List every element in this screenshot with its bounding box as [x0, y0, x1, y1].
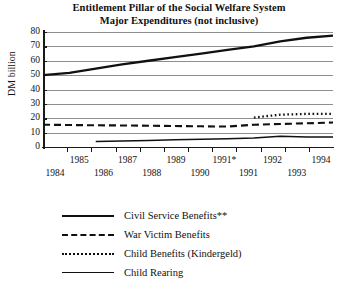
legend-line-swatch — [62, 234, 114, 241]
x-axis-tick-mark — [164, 147, 165, 152]
series-line — [43, 36, 333, 76]
y-axis-tick-label: 60 — [14, 56, 40, 66]
chart-figure: Entitlement Pillar of the Social Welfare… — [0, 0, 358, 288]
x-axis-label: 1992 — [253, 155, 293, 165]
x-axis-label: 1985 — [59, 155, 99, 165]
x-axis-label: 1988 — [132, 168, 172, 178]
y-axis-tick-label: 70 — [14, 41, 40, 51]
y-axis-tick-label: 40 — [14, 85, 40, 95]
x-axis-tick-mark — [261, 147, 262, 152]
x-axis-label: 1989 — [156, 155, 196, 165]
legend-item-label: War Victim Benefits — [124, 228, 210, 242]
x-axis-label: 1994 — [301, 155, 341, 165]
x-axis-label: 1986 — [83, 168, 123, 178]
x-axis-tick-mark — [309, 147, 310, 152]
y-axis-tick-label: 10 — [14, 128, 40, 138]
legend-line-swatch — [62, 253, 114, 260]
series-line — [96, 136, 333, 141]
x-axis-label: 1991 — [228, 168, 268, 178]
x-axis-label: 1993 — [277, 168, 317, 178]
series-line — [43, 123, 333, 127]
chart-legend: Civil Service Benefits**War Victim Benef… — [62, 208, 352, 284]
chart-title-block: Entitlement Pillar of the Social Welfare… — [0, 2, 358, 27]
x-axis-tick-mark — [236, 147, 237, 152]
series-line — [254, 114, 333, 118]
x-axis-tick-mark — [140, 147, 141, 152]
legend-item[interactable]: Civil Service Benefits** — [62, 208, 352, 227]
x-axis-label: 1984 — [35, 168, 75, 178]
chart-title-line-2: Major Expenditures (not inclusive) — [0, 15, 358, 28]
x-axis-tick-mark — [285, 147, 286, 152]
y-axis-tick-label: 20 — [14, 113, 40, 123]
x-axis-tick-mark — [116, 147, 117, 152]
legend-item-label: Civil Service Benefits** — [124, 209, 227, 223]
x-axis-label: 1987 — [108, 155, 148, 165]
legend-item-label: Child Benefits (Kindergeld) — [124, 247, 242, 261]
y-axis-tick-label: 50 — [14, 70, 40, 80]
y-axis-tick-label: 0 — [14, 142, 40, 152]
x-axis-label: 1990 — [180, 168, 220, 178]
x-axis-label: 1991* — [204, 155, 244, 165]
x-axis-tick-mark — [188, 147, 189, 152]
x-axis-tick-mark — [212, 147, 213, 152]
legend-item-label: Child Rearing — [124, 266, 183, 280]
legend-item[interactable]: Child Rearing — [62, 265, 352, 284]
y-axis-tick-label: 80 — [14, 27, 40, 37]
chart-title-line-1: Entitlement Pillar of the Social Welfare… — [0, 2, 358, 15]
series-lines — [43, 32, 333, 147]
legend-item[interactable]: War Victim Benefits — [62, 227, 352, 246]
y-axis-tick-label: 30 — [14, 99, 40, 109]
legend-line-swatch — [62, 272, 114, 278]
legend-line-swatch — [62, 215, 114, 222]
x-axis-tick-mark — [67, 147, 68, 152]
legend-item[interactable]: Child Benefits (Kindergeld) — [62, 246, 352, 265]
x-axis-tick-mark — [91, 147, 92, 152]
